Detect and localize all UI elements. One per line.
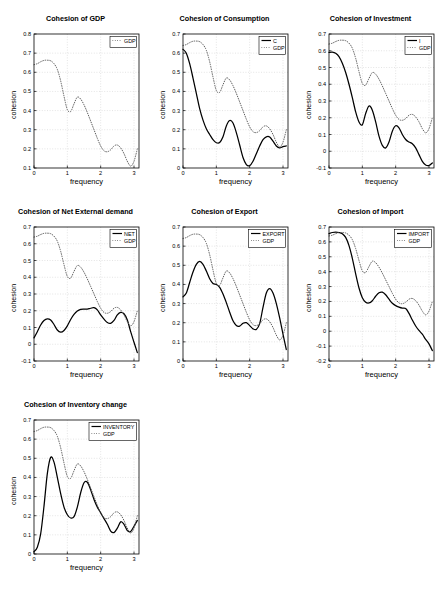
- y-tick-label: -0.1: [21, 358, 31, 364]
- y-tick-label: 0.7: [23, 224, 31, 230]
- y-axis-label: cohesion: [159, 284, 166, 312]
- y-tick-label: 0.1: [172, 339, 180, 345]
- y-tick-label: 0.3: [318, 98, 326, 104]
- x-tick-label: 1: [215, 170, 218, 176]
- y-tick-label: 0.3: [23, 494, 31, 500]
- y-axis-label: cohesion: [10, 91, 17, 119]
- y-tick-label: 0.1: [318, 132, 326, 138]
- y-tick-label: 0: [323, 328, 326, 334]
- y-tick-label: 0.5: [172, 262, 180, 268]
- y-tick-label: 0.5: [23, 88, 31, 94]
- y-axis-label: cohesion: [159, 91, 166, 119]
- x-tick-label: 1: [66, 170, 69, 176]
- series-line-i: [329, 52, 432, 166]
- x-tick-label: 1: [66, 363, 69, 369]
- y-tick-label: 0.1: [172, 146, 180, 152]
- legend-label: C: [273, 38, 277, 44]
- y-tick-label: 0: [177, 358, 180, 364]
- y-tick-label: 0.3: [23, 127, 31, 133]
- y-tick-label: 0.1: [23, 325, 31, 331]
- x-axis-label: frequency: [183, 370, 288, 379]
- y-tick-label: 0.2: [172, 320, 180, 326]
- chart-panel: Cohesion of Import-0.2-0.100.10.20.30.40…: [303, 207, 438, 371]
- legend-label: GDP: [273, 45, 285, 51]
- x-tick-label: 1: [361, 170, 364, 176]
- y-tick-label: 0.2: [172, 127, 180, 133]
- chart-canvas: 0.10.20.30.40.50.60.70.80123GDP: [8, 22, 143, 186]
- y-tick-label: 0.7: [23, 50, 31, 56]
- series-line-gdp: [34, 60, 137, 166]
- chart-canvas: 00.10.20.30.40.50.60.70123CGDP: [157, 22, 292, 186]
- series-line-gdp: [183, 41, 286, 147]
- legend-label: GDP: [103, 431, 115, 437]
- y-tick-label: 0.4: [172, 88, 180, 94]
- y-tick-label: 0.6: [318, 239, 326, 245]
- y-tick-label: 0.3: [172, 108, 180, 114]
- x-tick-label: 2: [99, 363, 102, 369]
- y-tick-label: 0.4: [23, 474, 31, 480]
- y-tick-label: -0.2: [316, 358, 326, 364]
- x-tick-label: 0: [32, 170, 35, 176]
- chart-panel: Cohesion of Investment-0.100.10.20.30.40…: [303, 14, 438, 178]
- y-tick-label: -0.1: [316, 343, 326, 349]
- x-tick-label: 3: [281, 363, 284, 369]
- y-tick-label: 0: [323, 148, 326, 154]
- y-tick-label: 0: [177, 165, 180, 171]
- y-tick-label: 0.2: [318, 115, 326, 121]
- y-tick-label: 0.7: [172, 224, 180, 230]
- chart-panel: Cohesion of Export00.10.20.30.40.50.60.7…: [157, 207, 292, 371]
- axes-frame: [34, 34, 139, 168]
- x-tick-label: 0: [327, 363, 330, 369]
- x-tick-label: 3: [132, 556, 135, 562]
- x-tick-label: 2: [394, 363, 397, 369]
- y-tick-label: 0.4: [318, 81, 326, 87]
- y-tick-label: 0.3: [318, 284, 326, 290]
- y-tick-label: 0.3: [172, 301, 180, 307]
- y-tick-label: 0.6: [318, 48, 326, 54]
- x-tick-label: 1: [66, 556, 69, 562]
- x-axis-label: frequency: [34, 563, 139, 572]
- x-axis-label: frequency: [329, 370, 434, 379]
- legend-label: GDP: [124, 238, 136, 244]
- y-axis-label: cohesion: [10, 284, 17, 312]
- y-tick-label: 0: [28, 551, 31, 557]
- legend-label: GDP: [419, 45, 431, 51]
- legend-label: GDP: [409, 238, 421, 244]
- x-tick-label: 3: [132, 170, 135, 176]
- x-tick-label: 1: [215, 363, 218, 369]
- y-axis-label: cohesion: [10, 477, 17, 505]
- x-axis-label: frequency: [329, 177, 434, 186]
- y-tick-label: 0.6: [172, 50, 180, 56]
- series-line-inventory: [34, 457, 137, 552]
- y-tick-label: 0.4: [23, 108, 31, 114]
- series-line-import: [329, 232, 432, 350]
- x-axis-label: frequency: [183, 177, 288, 186]
- chart-panel: Cohesion of GDP0.10.20.30.40.50.60.70.80…: [8, 14, 143, 178]
- chart-canvas: -0.100.10.20.30.40.50.60.70123NETGDP: [8, 215, 143, 379]
- y-tick-label: 0.2: [318, 298, 326, 304]
- x-tick-label: 3: [427, 363, 430, 369]
- chart-panel: Cohesion of Inventory change00.10.20.30.…: [8, 400, 143, 564]
- y-tick-label: 0.6: [23, 69, 31, 75]
- chart-canvas: -0.100.10.20.30.40.50.60.70123IGDP: [303, 22, 438, 186]
- y-tick-label: 0.5: [318, 254, 326, 260]
- x-tick-label: 1: [361, 363, 364, 369]
- series-line-c: [183, 49, 286, 166]
- y-tick-label: 0.6: [23, 241, 31, 247]
- y-tick-label: 0.5: [172, 69, 180, 75]
- chart-panel: Cohesion of Net External demand-0.100.10…: [8, 207, 143, 371]
- y-tick-label: 0.5: [318, 65, 326, 71]
- y-tick-label: 0.3: [23, 291, 31, 297]
- y-tick-label: 0.4: [172, 281, 180, 287]
- x-tick-label: 0: [32, 363, 35, 369]
- x-tick-label: 0: [181, 170, 184, 176]
- y-axis-label: cohesion: [305, 284, 312, 312]
- y-tick-label: 0.5: [23, 455, 31, 461]
- x-tick-label: 3: [132, 363, 135, 369]
- y-tick-label: 0.7: [318, 31, 326, 37]
- y-tick-label: 0.4: [318, 269, 326, 275]
- legend-label: INVENTORY: [103, 424, 135, 430]
- y-tick-label: 0.4: [23, 274, 31, 280]
- y-tick-label: 0.6: [172, 243, 180, 249]
- x-tick-label: 0: [181, 363, 184, 369]
